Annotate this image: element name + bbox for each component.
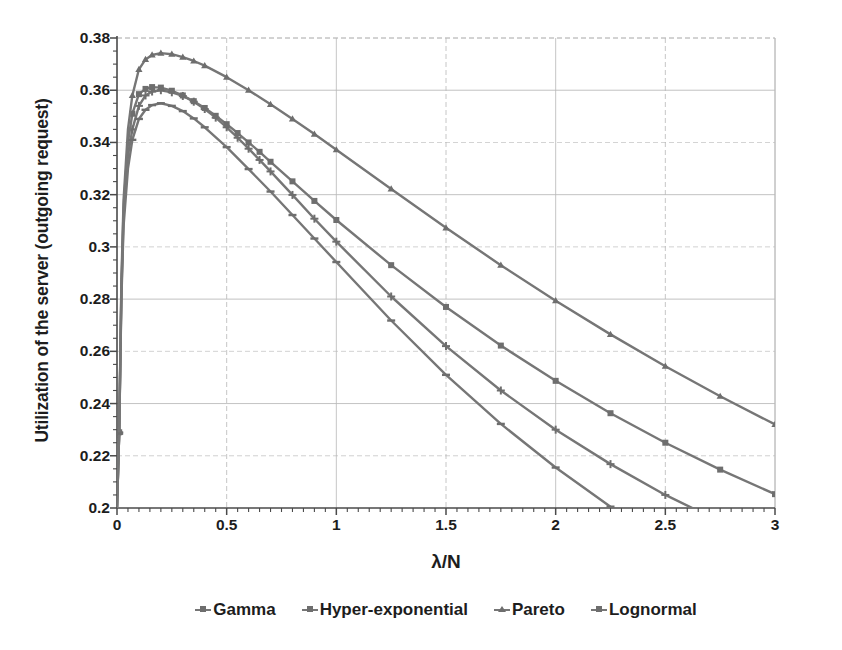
data-point-marker xyxy=(268,159,274,165)
data-point-marker xyxy=(289,178,295,184)
data-point-marker xyxy=(143,86,149,92)
data-point-marker xyxy=(136,91,142,97)
x-axis-tick-label: 2 xyxy=(551,516,560,534)
data-point-marker xyxy=(553,378,559,384)
chart-legend: GammaHyper-exponentialParetoLognormal xyxy=(117,600,775,620)
data-point-marker xyxy=(608,410,614,416)
data-point-marker xyxy=(257,149,263,155)
legend-item-label: Lognormal xyxy=(609,600,697,620)
x-axis-tick-label: 3 xyxy=(771,516,780,534)
data-point-marker xyxy=(498,343,504,349)
legend-item-label: Gamma xyxy=(213,600,275,620)
x-axis-tick-label: 1.5 xyxy=(435,516,457,534)
data-point-marker xyxy=(388,262,394,268)
legend-marker-icon xyxy=(591,604,607,616)
data-point-marker xyxy=(213,113,219,119)
data-point-marker xyxy=(246,139,252,145)
x-axis-tick-label: 2.5 xyxy=(655,516,677,534)
data-point-marker xyxy=(169,88,175,94)
legend-item[interactable]: Gamma xyxy=(195,600,275,620)
legend-item[interactable]: Pareto xyxy=(494,600,565,620)
data-point-marker xyxy=(717,467,723,473)
chart-container: Utilization of the server (outgoing requ… xyxy=(0,0,842,650)
data-point-marker xyxy=(443,304,449,310)
data-point-marker xyxy=(202,105,208,111)
legend-marker-icon xyxy=(302,604,318,616)
data-point-marker xyxy=(129,92,136,98)
data-point-marker xyxy=(662,440,668,446)
data-point-marker xyxy=(224,121,230,127)
legend-marker-icon xyxy=(195,604,211,616)
x-axis-tick-label: 0.5 xyxy=(216,516,238,534)
data-point-marker xyxy=(235,130,241,136)
legend-item-label: Hyper-exponential xyxy=(320,600,468,620)
legend-marker-icon xyxy=(494,604,510,616)
x-axis-title: λ/N xyxy=(117,551,775,573)
data-point-marker xyxy=(191,98,197,104)
x-axis-tick-label: 0 xyxy=(113,516,122,534)
data-point-marker xyxy=(311,198,317,204)
data-point-marker xyxy=(180,92,186,98)
legend-item-label: Pareto xyxy=(512,600,565,620)
data-point-marker xyxy=(772,491,778,497)
data-point-marker xyxy=(333,217,339,223)
data-point-marker xyxy=(158,85,164,91)
data-point-marker xyxy=(149,84,155,90)
x-axis-tick-label: 1 xyxy=(332,516,341,534)
legend-item[interactable]: Hyper-exponential xyxy=(302,600,468,620)
legend-item[interactable]: Lognormal xyxy=(591,600,697,620)
